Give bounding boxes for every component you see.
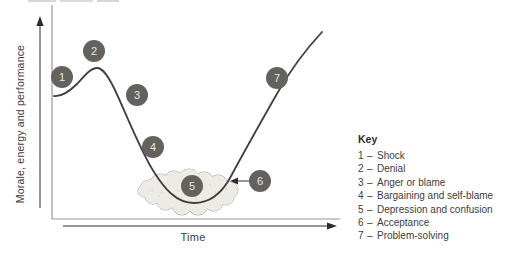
key-item-acceptance: 6 – Acceptance [358, 216, 493, 229]
y-axis-label: Morale, energy and performance [14, 34, 26, 214]
x-axis-label: Time [118, 231, 268, 243]
x-axis-arrow [63, 222, 337, 229]
key-item-number: 6 [358, 216, 367, 229]
key-item-dash: – [367, 203, 377, 216]
key-item-dash: – [367, 162, 377, 175]
key-title: Key [358, 133, 493, 145]
key-item-dash: – [367, 216, 377, 229]
stage-badge-1: 1 [51, 66, 73, 88]
key-item-dash: – [367, 149, 377, 162]
key-item-number: 1 [358, 149, 367, 162]
key-item-number: 7 [358, 229, 367, 242]
arrow-up-icon [36, 16, 43, 26]
stage-number: 2 [91, 45, 97, 57]
key-item-problem-solving: 7 – Problem-solving [358, 229, 493, 242]
stage-number: 7 [274, 72, 280, 84]
stage-badge-2: 2 [83, 40, 105, 62]
key-item-label: Anger or blame [377, 176, 445, 189]
stage-badge-3: 3 [126, 84, 148, 106]
stage-badge-6: 6 [249, 170, 271, 192]
arrow-right-icon [327, 222, 337, 229]
key-item-label: Shock [377, 149, 405, 162]
cropped-top-strip [28, 0, 119, 2]
stage-number: 6 [257, 175, 263, 187]
key-item-label: Problem-solving [377, 229, 449, 242]
key-item-bargaining: 4 – Bargaining and self-blame [358, 189, 493, 202]
stage-number: 3 [134, 89, 140, 101]
key-item-number: 4 [358, 189, 367, 202]
key-item-dash: – [367, 229, 377, 242]
key-panel: Key 1 – Shock 2 – Denial 3 – Anger or bl… [358, 133, 493, 243]
key-item-anger: 3 – Anger or blame [358, 176, 493, 189]
stage-badge-7: 7 [266, 67, 288, 89]
key-item-dash: – [367, 189, 377, 202]
change-curve-diagram: 1 2 3 4 5 6 7 [0, 0, 508, 258]
y-axis-arrow [36, 16, 43, 208]
stage-number: 4 [150, 141, 156, 153]
key-item-label: Depression and confusion [377, 203, 493, 216]
key-item-number: 2 [358, 162, 367, 175]
key-item-shock: 1 – Shock [358, 149, 493, 162]
stage-badge-5: 5 [181, 175, 203, 197]
key-item-label: Denial [377, 162, 405, 175]
key-item-number: 3 [358, 176, 367, 189]
key-item-depression: 5 – Depression and confusion [358, 203, 493, 216]
key-item-label: Acceptance [377, 216, 429, 229]
key-item-label: Bargaining and self-blame [377, 189, 493, 202]
stage-number: 5 [189, 180, 195, 192]
key-item-dash: – [367, 176, 377, 189]
key-item-denial: 2 – Denial [358, 162, 493, 175]
key-item-number: 5 [358, 203, 367, 216]
stage-number: 1 [59, 71, 65, 83]
stage-badge-4: 4 [142, 136, 164, 158]
